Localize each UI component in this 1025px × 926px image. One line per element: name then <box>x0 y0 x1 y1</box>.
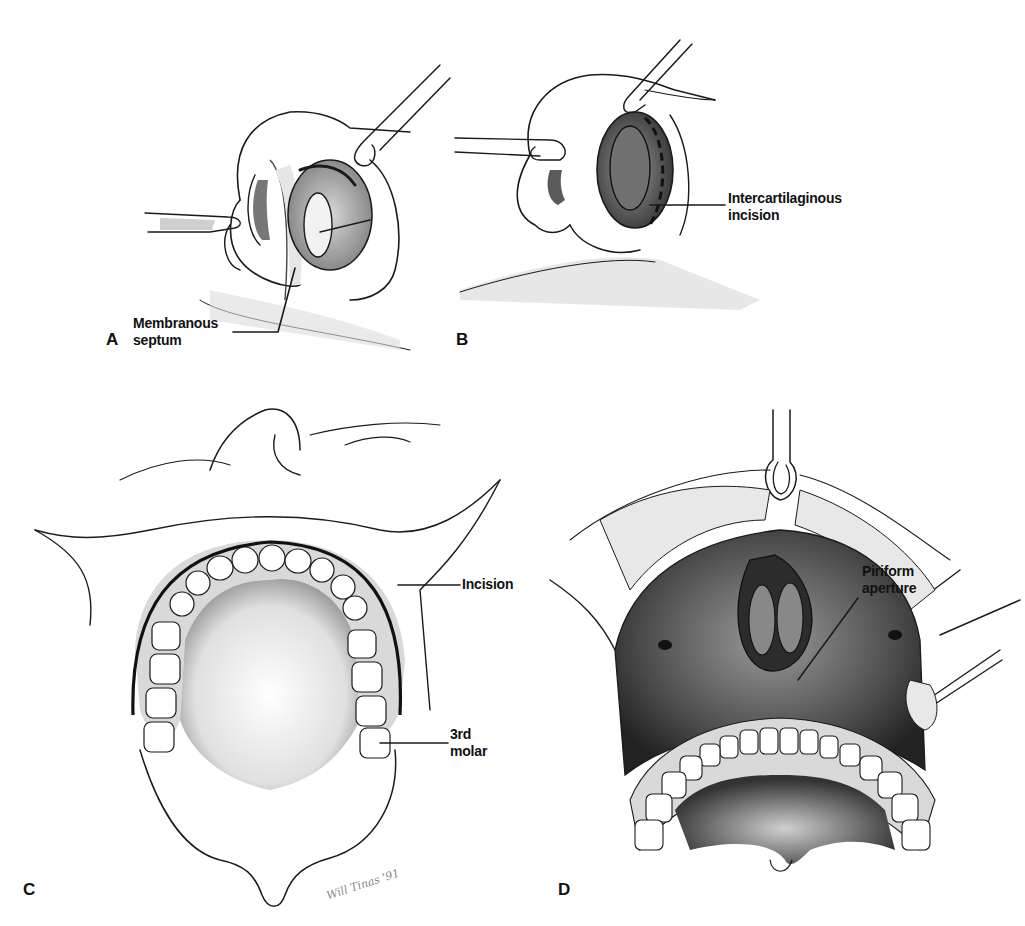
label-membranous-septum: Membranous septum <box>133 315 218 349</box>
panel-d-illustration <box>540 380 1025 926</box>
label-piriform-aperture: Piriform aperture <box>862 563 916 597</box>
panel-b: B Intercartilaginous incision <box>440 0 1025 380</box>
label-incision: Incision <box>462 576 513 593</box>
panel-letter-a: A <box>106 330 118 350</box>
panel-a-illustration <box>0 0 460 380</box>
panel-d: Piriform aperture D <box>540 380 1025 926</box>
panel-a: A Membranous septum <box>0 0 460 380</box>
panel-c: Incision 3rd molar Will Tinas '91 C <box>0 380 540 926</box>
panel-c-illustration <box>0 380 540 926</box>
panel-letter-b: B <box>456 330 468 350</box>
label-3rd-molar: 3rd molar <box>450 726 487 760</box>
panel-letter-c: C <box>23 880 35 900</box>
panel-letter-d: D <box>558 880 570 900</box>
label-intercartilaginous-incision: Intercartilaginous incision <box>728 190 842 224</box>
